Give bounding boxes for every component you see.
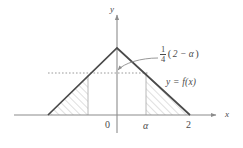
fraction-numerator: 1 [160, 45, 166, 54]
fraction-denominator: 4 [160, 55, 166, 64]
open-paren: ( [168, 49, 172, 60]
y-axis-label: y [110, 5, 114, 14]
x-tick-label-2: 2 [186, 120, 191, 130]
figure-canvas [0, 0, 243, 148]
height-expression: 2 − α [173, 50, 194, 60]
x-tick-label-alpha: α [143, 121, 148, 131]
math-figure: y x 0 α 2 1 4 ( 2 − α ) y = f(x) [0, 0, 243, 148]
close-paren: ) [195, 49, 199, 60]
height-annotation: 1 4 ( 2 − α ) [160, 45, 199, 64]
x-tick-label-0: 0 [105, 120, 110, 130]
x-axis-label: x [225, 110, 229, 119]
function-label: y = f(x) [166, 78, 196, 88]
fraction-one-quarter: 1 4 [160, 45, 166, 64]
